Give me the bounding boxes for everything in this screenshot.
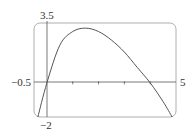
y-max-label: 3.5 <box>40 10 54 21</box>
plot-area <box>0 0 196 140</box>
y-min-label: −2 <box>40 120 52 131</box>
x-min-label: −0.5 <box>11 77 31 88</box>
function-curve <box>38 28 172 117</box>
viewing-window-frame <box>34 23 176 117</box>
x-max-label: 5 <box>180 77 186 88</box>
